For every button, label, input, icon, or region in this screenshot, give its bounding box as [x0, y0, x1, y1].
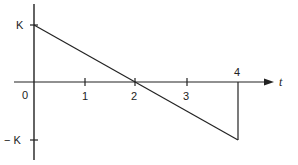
- x-label-0: 0: [22, 89, 28, 101]
- x-label-3: 3: [183, 90, 189, 102]
- x-axis-label-t: t: [279, 75, 283, 89]
- x-label-4: 4: [234, 66, 240, 78]
- y-label-K: K: [16, 19, 24, 31]
- signal-diagram: K − K 0 1 2 3 4 t: [0, 0, 298, 165]
- x-axis-arrow-icon: [264, 79, 274, 86]
- x-label-2: 2: [131, 90, 137, 102]
- y-label-neg-K: − K: [4, 134, 21, 146]
- x-label-1: 1: [82, 90, 88, 102]
